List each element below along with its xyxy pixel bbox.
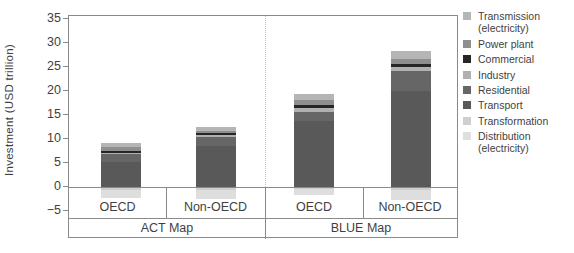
legend-swatch-transport <box>463 101 471 109</box>
bar-segment-transport <box>294 121 334 187</box>
chart-figure: Investment (USD trillion) 35302520151050… <box>0 0 574 253</box>
legend-swatch-distribution-electricity <box>463 132 471 140</box>
y-tick-label: 15 <box>25 107 61 121</box>
category-label-nonoecd-act: Non-OECD <box>166 187 265 218</box>
y-axis-title: Investment (USD trillion) <box>3 10 17 210</box>
legend-label: Transmission (electricity) <box>478 10 573 35</box>
legend-swatch-power-plant <box>463 40 471 48</box>
legend-item-transport: Transport <box>463 99 573 111</box>
bar-segment-transport <box>391 91 431 187</box>
y-tick-label: 5 <box>25 155 61 169</box>
legend-swatch-industry <box>463 71 471 79</box>
legend-swatch-transformation <box>463 117 471 125</box>
legend-label: Commercial <box>478 53 534 65</box>
plot-area: OECD Non-OECD OECD Non-OECD ACT Map BLUE… <box>68 15 458 238</box>
bar-segment-transport <box>101 162 141 187</box>
bar-segment-residential <box>196 137 236 147</box>
legend-item-distribution-electricity: Distribution (electricity) <box>463 130 573 155</box>
y-tick-label: 35 <box>25 11 61 25</box>
legend-swatch-transmission-electricity <box>463 12 471 20</box>
group-label-act-map: ACT Map <box>69 218 265 239</box>
legend-label: Distribution (electricity) <box>478 130 573 155</box>
y-tick-label: 25 <box>25 59 61 73</box>
legend-label: Industry <box>478 69 515 81</box>
legend: Transmission (electricity)Power plantCom… <box>463 10 573 158</box>
legend-item-transformation: Transformation <box>463 115 573 127</box>
bar-segment-transmission-electricity <box>391 51 431 59</box>
y-tick-label: −5 <box>25 203 61 217</box>
scenario-divider-dotted <box>265 16 266 187</box>
legend-item-transmission-electricity: Transmission (electricity) <box>463 10 573 35</box>
legend-label: Transformation <box>478 115 548 127</box>
bar-segment-transmission-electricity <box>294 94 334 101</box>
bar-segment-residential <box>294 112 334 121</box>
legend-item-power-plant: Power plant <box>463 38 573 50</box>
legend-swatch-residential <box>463 86 471 94</box>
bar-segment-residential <box>101 154 141 162</box>
bar-segment-residential <box>391 71 431 91</box>
legend-label: Residential <box>478 84 530 96</box>
y-tick-label: 0 <box>25 179 61 193</box>
bar-segment-transport <box>196 146 236 187</box>
legend-item-residential: Residential <box>463 84 573 96</box>
group-label-blue-map: BLUE Map <box>265 218 457 239</box>
legend-swatch-commercial <box>463 55 471 63</box>
category-label-nonoecd-blue: Non-OECD <box>363 187 457 218</box>
y-tick-label: 20 <box>25 83 61 97</box>
category-label-oecd-blue: OECD <box>265 187 363 218</box>
legend-item-commercial: Commercial <box>463 53 573 65</box>
legend-label: Transport <box>478 99 523 111</box>
y-tick-label: 30 <box>25 35 61 49</box>
legend-item-industry: Industry <box>463 69 573 81</box>
category-label-oecd-act: OECD <box>69 187 166 218</box>
y-tick-label: 10 <box>25 131 61 145</box>
legend-label: Power plant <box>478 38 533 50</box>
